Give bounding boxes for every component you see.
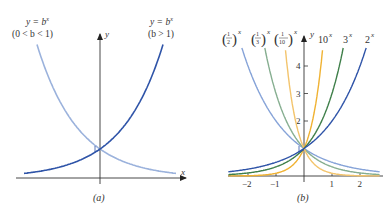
svg-text:x: x	[293, 28, 298, 36]
label-decay: y = bx (0 < b < 1)	[12, 16, 53, 40]
label-two: 2 x	[365, 31, 375, 45]
x-tick-label: −1	[270, 179, 280, 189]
svg-text:1: 1	[227, 31, 230, 37]
curve-(1/3)^x	[265, 48, 380, 175]
y-axis-label: y	[104, 29, 109, 39]
panel-b-caption: (b)	[297, 192, 309, 204]
curve-decay	[37, 45, 176, 174]
y-tick-label: 4	[296, 61, 301, 71]
x-tick-label: 1	[330, 179, 335, 189]
x-axis-label: x	[180, 167, 185, 177]
label-third: ( 1 3 ) x	[251, 28, 271, 48]
svg-text:2: 2	[365, 34, 370, 45]
panel-a: x y y = bx (0 < b < 1) y = bx (b > 1) (a…	[12, 16, 186, 204]
curve-3^x	[228, 48, 343, 175]
svg-text:(b > 1): (b > 1)	[148, 29, 174, 40]
svg-text:1: 1	[281, 31, 284, 37]
svg-text:x: x	[237, 28, 242, 36]
svg-text:x: x	[370, 31, 375, 39]
svg-text:2: 2	[227, 39, 230, 45]
svg-text:x: x	[266, 28, 271, 36]
y-axis-label: y	[309, 29, 314, 39]
svg-text:10: 10	[279, 39, 285, 45]
x-tick-label: 2	[358, 179, 363, 189]
figure: x y y = bx (0 < b < 1) y = bx (b > 1) (a…	[0, 0, 385, 212]
label-growth: y = bx (b > 1)	[148, 16, 174, 40]
y-tick-label: 3	[296, 89, 301, 99]
panel-a-caption: (a)	[93, 192, 105, 204]
svg-text:y = bx: y = bx	[25, 16, 49, 27]
curve-growth	[24, 45, 163, 174]
svg-text:10: 10	[318, 34, 328, 45]
svg-text:): )	[261, 31, 266, 48]
curve-(1/2)^x	[242, 48, 380, 172]
svg-text:): )	[288, 31, 293, 48]
label-tenth: ( 1 10 ) x	[274, 28, 298, 48]
label-three: 3 x	[343, 31, 353, 45]
x-tick-label: −2	[242, 179, 252, 189]
svg-text:(0 < b < 1): (0 < b < 1)	[12, 29, 53, 40]
svg-text:3: 3	[256, 39, 259, 45]
svg-text:3: 3	[343, 34, 348, 45]
label-half: ( 1 2 ) x	[222, 28, 242, 48]
svg-text:y = bx: y = bx	[149, 16, 173, 27]
panel-b: y −2−112234 ( 1 2 ) x ( 1 3 ) x ( 1 10 )…	[222, 28, 383, 204]
label-ten: 10 x	[318, 31, 333, 45]
svg-text:x: x	[348, 31, 353, 39]
svg-text:x: x	[328, 31, 333, 39]
svg-text:): )	[232, 31, 237, 48]
svg-text:1: 1	[256, 31, 259, 37]
